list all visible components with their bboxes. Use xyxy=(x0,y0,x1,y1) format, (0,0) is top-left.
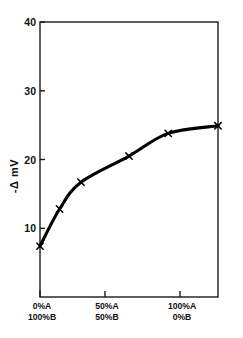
y-tick-label-10: 10 xyxy=(24,222,36,234)
y-axis-label-text: -Δ mV xyxy=(8,159,20,193)
y-tick-label-40: 40 xyxy=(24,16,36,28)
chart-canvas: 40 30 20 10 -Δ mV 0%A 100%B 50%A 50%B 10… xyxy=(0,0,243,338)
figure-background xyxy=(0,0,243,338)
chart-figure: 40 30 20 10 -Δ mV 0%A 100%B 50%A 50%B 10… xyxy=(0,0,243,338)
x-tick-label-0-bottom: 100%B xyxy=(28,312,56,322)
x-tick-label-50-top: 50%A xyxy=(95,301,118,311)
y-tick-label-20: 20 xyxy=(24,154,36,166)
x-tick-label-0-top: 0%A xyxy=(33,301,52,311)
y-axis-label: -Δ mV xyxy=(8,159,20,193)
y-tick-label-30: 30 xyxy=(24,85,36,97)
x-tick-label-100-top: 100%A xyxy=(168,301,196,311)
x-tick-label-100-bottom: 0%B xyxy=(173,312,192,322)
x-tick-label-50-bottom: 50%B xyxy=(95,312,118,322)
